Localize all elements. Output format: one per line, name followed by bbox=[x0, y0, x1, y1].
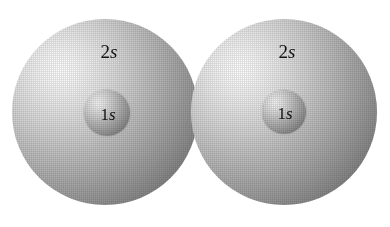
orbital-label-1s-left: 1s bbox=[100, 106, 115, 123]
orbital-label-2s-right: 2s bbox=[279, 42, 296, 61]
orbital-label-symbol: s bbox=[288, 41, 295, 62]
orbital-label-number: 1 bbox=[277, 104, 286, 123]
orbital-label-symbol: s bbox=[109, 105, 116, 124]
orbital-label-number: 2 bbox=[279, 41, 289, 62]
orbital-label-number: 1 bbox=[100, 105, 109, 124]
orbital-label-2s-left: 2s bbox=[101, 42, 118, 61]
orbital-label-number: 2 bbox=[101, 41, 111, 62]
orbital-label-1s-right: 1s bbox=[277, 105, 292, 122]
orbital-diagram: 2s 1s 2s 1s bbox=[0, 0, 390, 227]
orbital-label-symbol: s bbox=[110, 41, 117, 62]
orbital-label-symbol: s bbox=[286, 104, 293, 123]
